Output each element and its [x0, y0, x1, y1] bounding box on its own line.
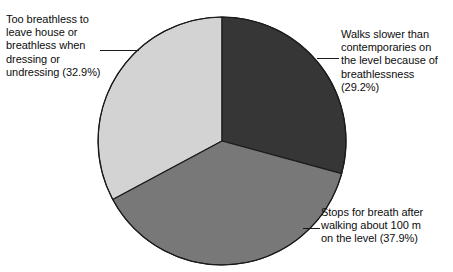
slice-label-walks-slower: Walks slower than contemporaries on the … — [341, 28, 453, 94]
pie-chart-figure: Too breathless to leave house or breathl… — [0, 0, 453, 272]
slice-label-too-breathless: Too breathless to leave house or breathl… — [6, 13, 134, 79]
slice-label-stops-for-breath: Stops for breath after walking about 100… — [321, 206, 453, 246]
